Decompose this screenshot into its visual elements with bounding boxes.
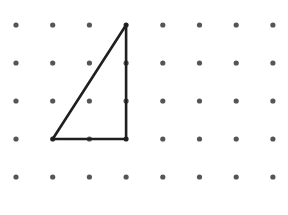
grid-dot	[160, 174, 165, 179]
grid-dot	[234, 98, 239, 103]
triangle	[51, 23, 129, 141]
triangle-vertex	[124, 137, 128, 141]
grid-dot	[124, 174, 129, 179]
grid-dot	[87, 60, 92, 65]
grid-dot	[234, 60, 239, 65]
grid-dot	[160, 98, 165, 103]
grid-dot	[50, 22, 55, 27]
grid-dot	[87, 174, 92, 179]
grid-dot	[13, 174, 18, 179]
grid-dot	[50, 98, 55, 103]
grid-dot	[197, 98, 202, 103]
grid-dot	[13, 136, 18, 141]
grid-dot	[160, 136, 165, 141]
grid-dot	[197, 136, 202, 141]
grid-dot	[13, 98, 18, 103]
grid-dot	[234, 136, 239, 141]
grid-dot	[234, 174, 239, 179]
grid-dot	[270, 98, 275, 103]
grid-dot	[87, 22, 92, 27]
grid-dot	[197, 60, 202, 65]
grid-dot	[160, 22, 165, 27]
grid-dot	[160, 60, 165, 65]
grid-dot	[234, 22, 239, 27]
grid-dot	[50, 60, 55, 65]
grid-dot	[13, 22, 18, 27]
grid-dot	[270, 174, 275, 179]
grid-dot	[197, 174, 202, 179]
triangle-edge	[53, 25, 126, 139]
grid-dot	[197, 22, 202, 27]
triangle-vertex	[51, 137, 55, 141]
grid-dot	[13, 60, 18, 65]
dot-grid-diagram	[0, 0, 288, 215]
dot-grid	[13, 22, 275, 179]
grid-dot	[270, 22, 275, 27]
triangle-vertex	[124, 23, 128, 27]
grid-dot	[270, 60, 275, 65]
grid-dot	[87, 98, 92, 103]
grid-dot	[50, 174, 55, 179]
grid-dot	[270, 136, 275, 141]
